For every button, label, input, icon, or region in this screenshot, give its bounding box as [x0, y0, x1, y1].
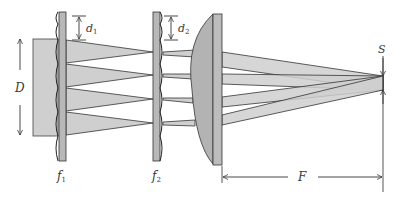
beam-width-label: D — [14, 81, 25, 95]
spot-size-label: S — [378, 43, 386, 56]
lens-array-2 — [153, 12, 162, 161]
beamlets-array1-to-array2 — [66, 40, 153, 135]
pitch-1-label: d1 — [86, 22, 98, 36]
beamlets-array2-to-condenser — [163, 50, 195, 126]
pitch-2-dimension — [164, 16, 178, 40]
input-beam — [33, 39, 58, 136]
beamlets-condenser-to-focus — [222, 52, 383, 125]
lens-array-1 — [56, 12, 66, 161]
pitch-2-label: d2 — [178, 22, 190, 36]
condenser-lens — [191, 14, 222, 165]
homogenizer-diagram: D d1 d2 f1 f2 S F — [0, 0, 402, 199]
focal-2-label: f2 — [151, 169, 161, 184]
focal-1-label: f1 — [56, 169, 66, 184]
pitch-1-dimension — [72, 16, 86, 40]
condenser-focal-label: F — [297, 170, 307, 184]
